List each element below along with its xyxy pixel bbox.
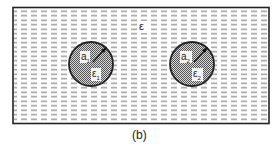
medium-permittivity-label: ε bbox=[139, 21, 144, 32]
sphere-2-permittivity-label: ε2 bbox=[193, 69, 201, 81]
radius-subscript: 2 bbox=[187, 58, 190, 64]
sphere-2 bbox=[170, 42, 214, 86]
sphere-1-radius-label: a1 bbox=[81, 52, 90, 64]
sphere-1 bbox=[69, 42, 113, 86]
permittivity-subscript: 2 bbox=[197, 75, 200, 81]
permittivity-subscript: 1 bbox=[96, 75, 99, 81]
sphere-2-radius-label: a2 bbox=[181, 52, 190, 64]
figure-caption: (b) bbox=[132, 129, 147, 141]
sphere-1-permittivity-label: ε1 bbox=[92, 69, 100, 81]
radius-subscript: 1 bbox=[87, 58, 90, 64]
